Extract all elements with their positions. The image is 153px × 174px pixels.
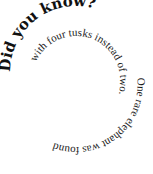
body-inner-text: with four tusks instead of two. bbox=[27, 26, 130, 97]
spiral-text-graphic: Did you know? One rare elephant was foun… bbox=[0, 0, 153, 174]
body-outer-text: One rare elephant was found bbox=[50, 77, 147, 157]
